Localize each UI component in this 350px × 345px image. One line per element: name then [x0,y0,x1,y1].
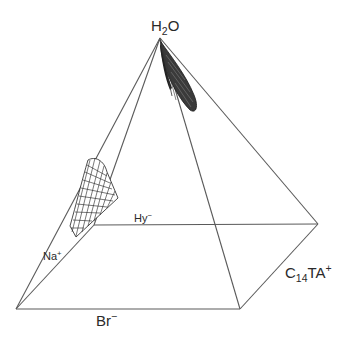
label-na: Na+ [43,251,62,262]
edge-left [16,225,94,309]
pyramid-diagram: H2O Hy− Na+ C14TA+ Br− [0,0,350,345]
label-hy: Hy− [134,213,152,224]
edge-apex-back-right [160,38,318,224]
label-br: Br− [96,313,117,328]
label-h2o: H2O [151,18,179,33]
label-c14ta: C14TA+ [285,265,332,280]
pyramid-edges [0,0,350,345]
edge-back [94,224,318,225]
